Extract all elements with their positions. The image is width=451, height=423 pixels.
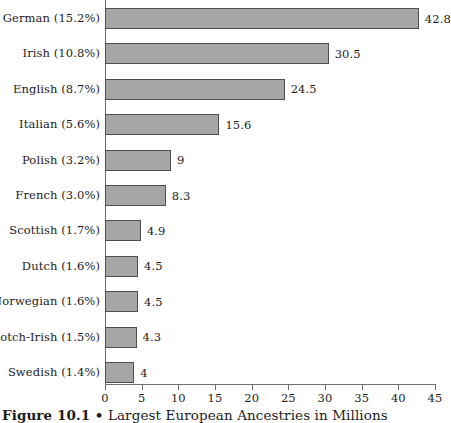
x-axis-tick-label: 5: [127, 391, 157, 405]
bar-value-label: 8.3: [172, 189, 191, 203]
bar[interactable]: [105, 114, 219, 135]
bar-value-label: 42.8: [425, 12, 451, 26]
bar-row: 4: [105, 362, 435, 383]
x-axis-tick: [325, 385, 326, 390]
caption-separator-icon: •: [95, 407, 104, 423]
category-label: Polish (3.2%): [0, 150, 100, 171]
x-axis-tick: [178, 385, 179, 390]
category-label: English (8.7%): [0, 79, 100, 100]
bar-row: 9: [105, 150, 435, 171]
plot-area: 42.830.524.515.698.34.94.54.54.34: [105, 0, 435, 385]
bar[interactable]: [105, 220, 141, 241]
x-axis-tick-label: 15: [200, 391, 230, 405]
x-axis-tick-label: 25: [273, 391, 303, 405]
x-axis-tick-label: 40: [383, 391, 413, 405]
bar-row: 24.5: [105, 79, 435, 100]
bar-row: 4.5: [105, 256, 435, 277]
bar-value-label: 30.5: [335, 47, 361, 61]
figure-caption: Figure 10.1 • Largest European Ancestrie…: [2, 407, 388, 423]
category-label: Scotch-Irish (1.5%): [0, 327, 100, 348]
x-axis-tick-label: 30: [310, 391, 340, 405]
category-label: Italian (5.6%): [0, 114, 100, 135]
bar-value-label: 4.5: [144, 295, 163, 309]
bar[interactable]: [105, 362, 134, 383]
x-axis-tick: [142, 385, 143, 390]
bar-row: 4.5: [105, 291, 435, 312]
category-label: Scottish (1.7%): [0, 220, 100, 241]
bar-row: 8.3: [105, 185, 435, 206]
bar[interactable]: [105, 150, 171, 171]
bar-row: 4.9: [105, 220, 435, 241]
bar[interactable]: [105, 256, 138, 277]
x-axis-tick: [252, 385, 253, 390]
bar[interactable]: [105, 327, 137, 348]
bar-row: 15.6: [105, 114, 435, 135]
x-axis-tick-label: 10: [163, 391, 193, 405]
x-axis-tick: [105, 385, 106, 390]
x-axis-tick: [435, 385, 436, 390]
bar-value-label: 4: [140, 366, 147, 380]
category-label: German (15.2%): [0, 8, 100, 29]
bar-value-label: 4.9: [147, 224, 166, 238]
bar-row: 42.8: [105, 8, 435, 29]
category-label: Irish (10.8%): [0, 43, 100, 64]
x-axis-tick-label: 45: [420, 391, 450, 405]
x-axis-tick-label: 35: [347, 391, 377, 405]
bar-value-label: 4.5: [144, 259, 163, 273]
x-axis-tick: [362, 385, 363, 390]
bar-row: 30.5: [105, 43, 435, 64]
x-axis-tick: [215, 385, 216, 390]
caption-title: Largest European Ancestries in Millions: [108, 407, 388, 423]
bar-row: 4.3: [105, 327, 435, 348]
x-axis-tick-label: 20: [237, 391, 267, 405]
bar[interactable]: [105, 79, 285, 100]
category-label: French (3.0%): [0, 185, 100, 206]
bar-value-label: 4.3: [143, 330, 162, 344]
bar[interactable]: [105, 291, 138, 312]
x-axis-tick-label: 0: [90, 391, 120, 405]
caption-figure-number: Figure 10.1: [2, 407, 90, 423]
bar-value-label: 24.5: [291, 82, 317, 96]
x-axis-tick: [288, 385, 289, 390]
bar[interactable]: [105, 185, 166, 206]
bar[interactable]: [105, 8, 419, 29]
category-label: Norwegian (1.6%): [0, 291, 100, 312]
x-axis-tick: [398, 385, 399, 390]
category-label: Swedish (1.4%): [0, 362, 100, 383]
bar[interactable]: [105, 43, 329, 64]
bar-value-label: 15.6: [225, 118, 251, 132]
bar-value-label: 9: [177, 153, 184, 167]
category-label: Dutch (1.6%): [0, 256, 100, 277]
